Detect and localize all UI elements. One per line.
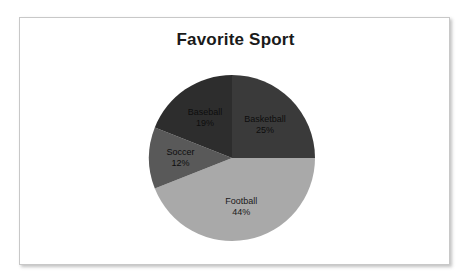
chart-frame: Favorite Sport Basketball25%Football44%S… [19, 17, 450, 265]
pie-chart: Basketball25%Football44%Soccer12%Basebal… [20, 18, 451, 266]
pie-slice-group [149, 75, 315, 241]
pie-slice-basketball[interactable] [232, 75, 315, 158]
pie-svg [20, 18, 451, 266]
